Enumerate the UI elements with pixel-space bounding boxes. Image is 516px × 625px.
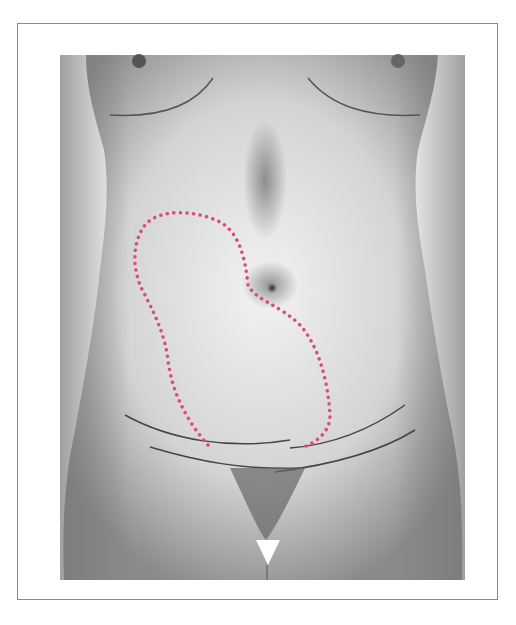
nipple-right <box>391 54 405 68</box>
navel <box>266 282 278 294</box>
torso-illustration <box>0 0 516 625</box>
nipple-left <box>132 54 146 68</box>
